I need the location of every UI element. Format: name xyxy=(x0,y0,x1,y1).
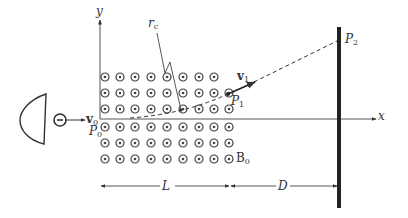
rc-radius-line xyxy=(157,33,181,110)
p1-point xyxy=(226,92,230,96)
p0-label: P0 xyxy=(89,125,102,139)
trajectory-arc xyxy=(130,94,228,118)
y-axis-label: y xyxy=(96,5,103,17)
trajectory-straight xyxy=(254,40,339,82)
p1-label: P1 xyxy=(231,95,244,109)
screen xyxy=(337,27,341,208)
L-label: L xyxy=(162,180,170,192)
electron-gun-icon xyxy=(20,94,46,144)
b0-label: B0 xyxy=(236,152,250,166)
electron-icon xyxy=(54,114,66,126)
p2-label: P2 xyxy=(345,33,358,47)
magnetic-field-dots xyxy=(101,73,233,163)
v1-label: v1 xyxy=(237,70,249,84)
rc-label: rc xyxy=(148,17,158,31)
D-label: D xyxy=(278,180,288,192)
x-axis-label: x xyxy=(378,110,385,122)
